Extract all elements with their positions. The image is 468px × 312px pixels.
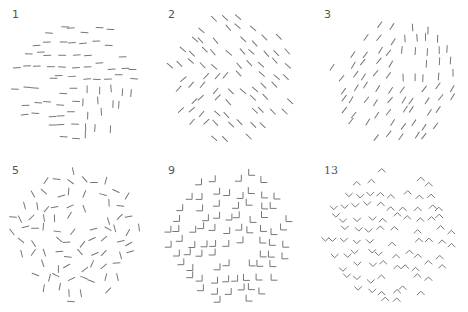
texture-element — [211, 50, 216, 55]
texture-element — [226, 214, 232, 220]
texture-element — [438, 73, 439, 80]
texture-element — [53, 179, 60, 180]
texture-element — [64, 256, 71, 257]
texture-element — [173, 250, 179, 256]
texture-element — [268, 251, 274, 257]
texture-element — [374, 135, 378, 141]
texture-element — [355, 85, 359, 91]
texture-element — [199, 111, 204, 116]
texture-element — [437, 226, 444, 230]
texture-element — [125, 193, 129, 199]
texture-element — [439, 240, 446, 244]
texture-element — [202, 215, 208, 221]
texture-element — [126, 242, 132, 245]
texture-element — [95, 125, 96, 132]
texture-element — [212, 277, 218, 283]
texture-element — [375, 112, 379, 118]
texture-element — [387, 207, 394, 211]
texture-element — [180, 47, 185, 52]
texture-element — [366, 240, 373, 244]
texture-element — [111, 85, 112, 92]
texture-element — [414, 207, 421, 211]
texture-element — [352, 62, 356, 68]
texture-element — [232, 275, 238, 281]
texture-element — [167, 63, 172, 68]
texture-element — [390, 24, 394, 30]
texture-element — [51, 206, 58, 207]
texture-element — [281, 224, 287, 230]
texture-element — [366, 119, 370, 125]
texture-element — [249, 50, 254, 55]
texture-element — [240, 89, 245, 94]
texture-element — [260, 237, 266, 243]
texture-element — [107, 218, 109, 225]
texture-element — [68, 212, 71, 218]
texture-element — [190, 226, 196, 232]
texture-element — [261, 225, 267, 231]
texture-element — [270, 109, 275, 114]
texture-element — [386, 73, 390, 79]
texture-element — [200, 63, 205, 68]
texture-element — [80, 242, 84, 248]
texture-element — [400, 87, 404, 93]
texture-element — [201, 241, 207, 247]
texture-element — [223, 73, 228, 78]
texture-element — [186, 193, 192, 199]
texture-element — [213, 88, 218, 93]
texture-element — [341, 205, 348, 209]
texture-element — [399, 286, 406, 290]
texture-element — [113, 189, 119, 192]
texture-element — [114, 225, 116, 232]
texture-element — [274, 51, 279, 56]
texture-element — [331, 254, 338, 258]
texture-element — [378, 22, 382, 28]
texture-element — [235, 15, 240, 20]
texture-element — [436, 214, 443, 218]
texture-element — [222, 136, 227, 141]
texture-element — [248, 284, 254, 290]
texture-element — [342, 95, 346, 101]
texture-element — [187, 272, 193, 278]
texture-element — [57, 237, 62, 242]
texture-element — [233, 212, 239, 218]
texture-element — [247, 227, 253, 233]
texture-element — [43, 223, 44, 230]
texture-element — [252, 87, 257, 92]
texture-element — [214, 111, 219, 116]
texture-element — [285, 49, 290, 54]
texture-element — [223, 16, 228, 21]
texture-element — [189, 107, 194, 112]
texture-element — [117, 240, 124, 242]
texture-element — [262, 192, 268, 198]
texture-element — [391, 120, 395, 126]
texture-element — [189, 242, 195, 248]
texture-element — [361, 74, 365, 80]
texture-element — [37, 203, 38, 210]
line-texture-field — [156, 0, 312, 156]
texture-element — [184, 249, 190, 255]
texture-element — [272, 82, 277, 87]
texture-element — [248, 188, 254, 194]
texture-element — [176, 235, 182, 241]
texture-element — [209, 249, 215, 255]
texture-element — [260, 123, 265, 128]
texture-element — [425, 238, 432, 242]
texture-element — [355, 228, 362, 232]
texture-element — [117, 214, 122, 219]
texture-element — [223, 276, 229, 282]
texture-element — [252, 108, 257, 113]
texture-element — [213, 200, 219, 206]
texture-element — [349, 118, 353, 124]
texture-element — [349, 97, 353, 103]
texture-element — [406, 250, 413, 254]
texture-element — [416, 195, 423, 199]
texture-element — [236, 224, 242, 230]
texture-element — [404, 216, 411, 220]
panel-3: 3 — [312, 0, 468, 156]
panel-1: 1 — [0, 0, 156, 156]
texture-element — [343, 274, 350, 278]
texture-element — [209, 224, 215, 230]
texture-element — [259, 62, 264, 67]
texture-element — [380, 261, 387, 265]
texture-element — [270, 202, 276, 208]
